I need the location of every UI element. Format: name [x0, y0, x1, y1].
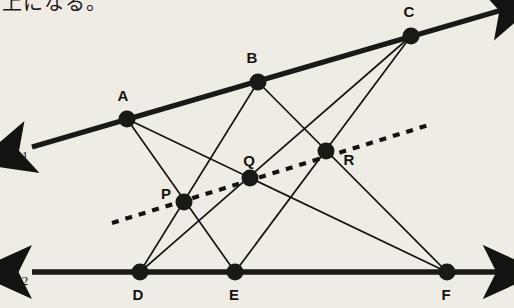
line-l1 [32, 10, 502, 147]
line-label-l2-base: l [14, 261, 20, 285]
point-label-A: A [118, 87, 129, 104]
point-dot-D [132, 264, 149, 281]
point-dot-B [250, 74, 267, 91]
point-dot-C [403, 28, 420, 45]
point-dot-F [439, 264, 456, 281]
line-label-l2-sub: 2 [22, 273, 29, 288]
point-label-P: P [161, 185, 171, 202]
point-dot-A [119, 111, 136, 128]
point-label-group: A B C P Q R D E F [118, 3, 451, 303]
point-dot-Q [242, 170, 259, 187]
point-label-D: D [133, 286, 144, 303]
point-dot-P [176, 194, 193, 211]
point-label-B: B [247, 49, 258, 66]
point-label-C: C [404, 3, 415, 20]
segment-B-F [258, 82, 447, 272]
point-label-F: F [441, 286, 450, 303]
segment-A-F [127, 119, 447, 272]
line-label-l1: l1 [14, 136, 28, 163]
line-label-l2: l2 [14, 261, 28, 288]
geometry-diagram: A B C P Q R D E F l1 l2 [0, 0, 514, 308]
point-label-E: E [229, 286, 239, 303]
line-label-l1-base: l [14, 136, 20, 160]
point-dot-R [318, 143, 335, 160]
segment-C-D [140, 36, 411, 272]
line-label-l1-sub: 1 [22, 148, 29, 163]
point-label-Q: Q [243, 152, 255, 169]
line-label-group: l1 l2 [14, 136, 28, 288]
point-dot-group [119, 28, 456, 281]
point-label-R: R [344, 151, 355, 168]
point-dot-E [227, 264, 244, 281]
